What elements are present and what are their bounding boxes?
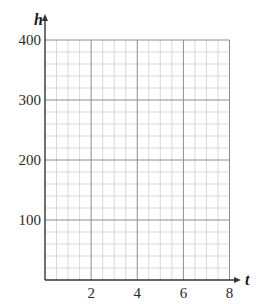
y-tick-label: 300 — [19, 92, 42, 108]
x-tick-label: 6 — [180, 285, 188, 301]
x-axis-label: t — [245, 271, 250, 288]
y-tick-label: 100 — [19, 212, 42, 228]
x-tick-label: 8 — [226, 285, 234, 301]
y-tick-label: 400 — [19, 32, 42, 48]
y-tick-label: 200 — [19, 152, 42, 168]
blank-grid-chart: 2468100200300400ht — [0, 0, 262, 304]
x-axis-arrow-icon — [234, 277, 241, 283]
x-tick-label: 4 — [134, 285, 142, 301]
x-tick-label: 2 — [87, 285, 95, 301]
y-axis-label: h — [34, 11, 43, 28]
